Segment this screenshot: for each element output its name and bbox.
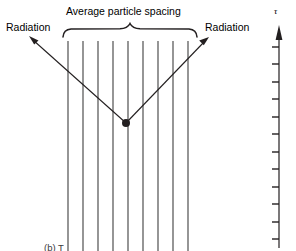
radiation-ray-paths <box>33 40 205 123</box>
figure-caption-clipped: (b) T <box>44 243 64 251</box>
scattering-vertex-dot <box>122 119 130 127</box>
diagram-canvas <box>0 0 296 251</box>
figure-diagram: Average particle spacing Radiation Radia… <box>0 0 296 251</box>
radiation-arrowhead-right <box>199 37 209 45</box>
radiation-ray-left <box>33 40 126 123</box>
radiation-ray-right <box>126 41 205 123</box>
particle-spacing-lines <box>68 41 188 251</box>
tau-axis-ticks <box>272 47 279 239</box>
tau-axis-arrowhead <box>276 25 283 40</box>
radiation-label-left: Radiation <box>6 22 50 33</box>
average-particle-spacing-label: Average particle spacing <box>66 6 181 17</box>
tau-axis-label: τ <box>274 7 277 16</box>
average-particle-spacing-brace <box>63 24 197 38</box>
radiation-label-right: Radiation <box>205 22 249 33</box>
tau-axis <box>272 30 279 248</box>
